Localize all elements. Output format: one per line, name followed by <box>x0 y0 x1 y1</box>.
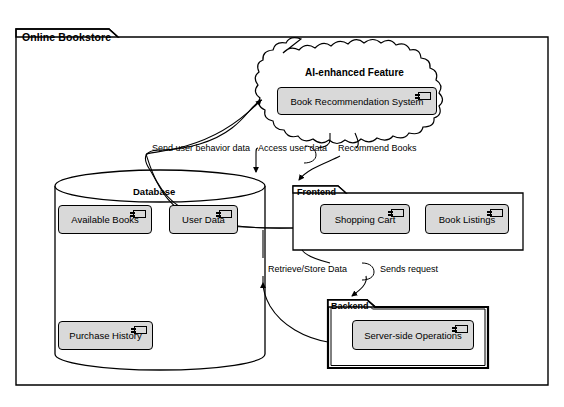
component-icon <box>219 210 232 218</box>
component-server-side-operations[interactable]: Server-side Operations <box>352 320 474 350</box>
component-shopping-cart[interactable]: Shopping Cart <box>320 204 410 234</box>
component-icon <box>391 209 404 217</box>
component-label: Available Books <box>71 214 138 225</box>
component-icon <box>490 209 503 217</box>
component-label: Server-side Operations <box>364 330 462 341</box>
component-icon <box>418 92 431 100</box>
component-label: Shopping Cart <box>335 214 396 225</box>
component-label: Book Recommendation System <box>290 96 423 107</box>
component-user-data[interactable]: User Data <box>169 205 238 234</box>
component-book-listings[interactable]: Book Listings <box>425 204 509 234</box>
component-icon <box>134 326 147 334</box>
component-available-books[interactable]: Available Books <box>58 205 152 234</box>
component-purchase-history[interactable]: Purchase History <box>58 321 153 350</box>
component-book-recommendation-system[interactable]: Book Recommendation System <box>277 87 437 115</box>
connector-sends-request <box>302 250 366 296</box>
component-icon <box>455 325 468 333</box>
component-icon <box>133 210 146 218</box>
